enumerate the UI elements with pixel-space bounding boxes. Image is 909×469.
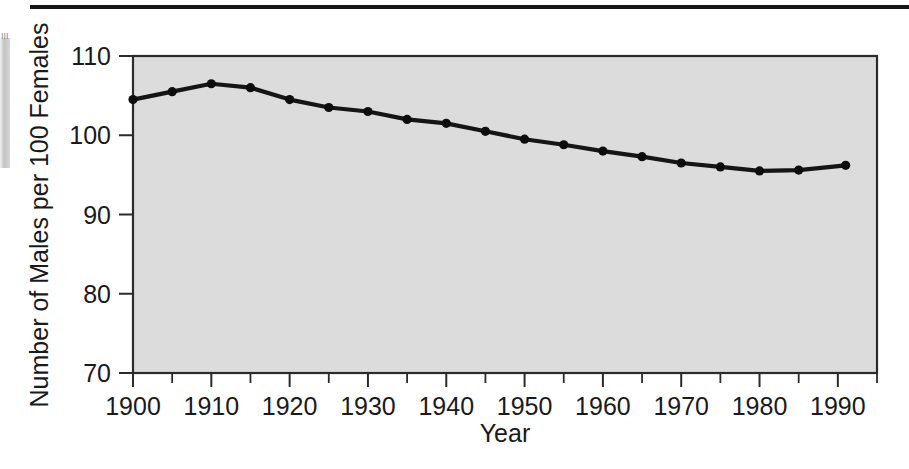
data-point-marker xyxy=(207,79,216,88)
data-point-marker xyxy=(363,107,372,116)
x-tick-label: 1920 xyxy=(262,392,318,420)
data-point-marker xyxy=(324,103,333,112)
data-point-marker xyxy=(755,166,764,175)
data-point-marker xyxy=(285,95,294,104)
data-point-marker xyxy=(794,166,803,175)
x-axis-tick-labels: 1900191019201930194019501960197019801990 xyxy=(105,392,865,420)
data-point-marker xyxy=(559,140,568,149)
plot-area-background xyxy=(133,56,877,373)
y-tick-label: 90 xyxy=(83,201,111,229)
data-point-marker xyxy=(481,127,490,136)
figure-container: III 708090100110 19001910192019301940195… xyxy=(0,0,909,469)
x-tick-label: 1960 xyxy=(575,392,631,420)
x-tick-label: 1950 xyxy=(497,392,553,420)
x-tick-label: 1990 xyxy=(810,392,866,420)
data-point-marker xyxy=(677,158,686,167)
y-tick-label: 70 xyxy=(83,359,111,387)
data-point-marker xyxy=(841,161,850,170)
line-chart: 708090100110 190019101920193019401950196… xyxy=(0,0,909,469)
x-tick-label: 1970 xyxy=(653,392,709,420)
data-point-marker xyxy=(128,95,137,104)
x-tick-label: 1900 xyxy=(105,392,161,420)
x-tick-label: 1940 xyxy=(418,392,474,420)
data-point-marker xyxy=(520,135,529,144)
data-point-marker xyxy=(442,119,451,128)
data-point-marker xyxy=(246,83,255,92)
x-tick-label: 1930 xyxy=(340,392,396,420)
data-point-marker xyxy=(598,147,607,156)
y-tick-label: 100 xyxy=(69,121,111,149)
data-point-marker xyxy=(168,87,177,96)
data-point-marker xyxy=(403,115,412,124)
y-tick-label: 110 xyxy=(71,42,111,70)
x-tick-label: 1980 xyxy=(732,392,788,420)
data-point-marker xyxy=(637,152,646,161)
x-axis-title: Year xyxy=(480,419,531,447)
y-axis-title: Number of Males per 100 Females xyxy=(25,23,53,408)
x-tick-label: 1910 xyxy=(184,392,240,420)
data-point-marker xyxy=(716,162,725,171)
y-tick-label: 80 xyxy=(83,280,111,308)
y-axis-tick-labels: 708090100110 xyxy=(69,42,111,387)
